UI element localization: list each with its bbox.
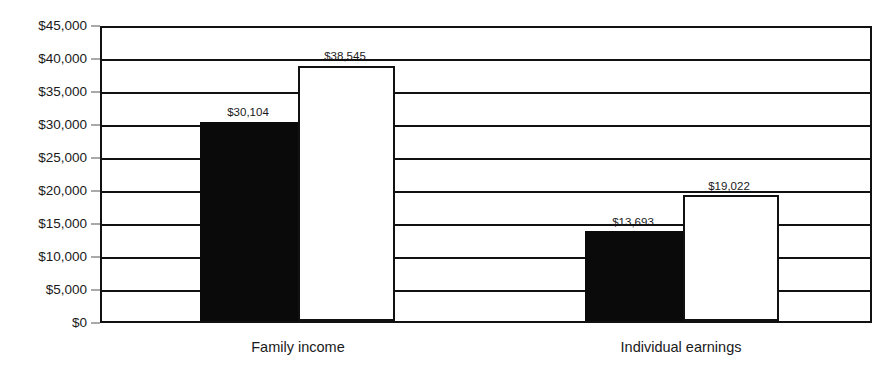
y-tick-label-40000: $40,000: [38, 52, 87, 66]
bar-value-label-individual-earnings-dark: $13,693: [612, 217, 654, 229]
chart-title: [0, 0, 885, 2]
bar-value-label-individual-earnings-light: $19,022: [708, 181, 750, 193]
y-tick-mark-15000: [91, 224, 100, 225]
bar-family-income-dark: [200, 122, 300, 321]
y-tick-mark-25000: [91, 158, 100, 159]
y-tick-label-25000: $25,000: [38, 151, 87, 165]
bar-chart: $45,000 $40,000 $35,000 $30,000 $25,000 …: [0, 0, 885, 374]
y-tick-label-20000: $20,000: [38, 184, 87, 198]
y-tick-label-0: $0: [72, 316, 87, 330]
y-tick-mark-35000: [91, 92, 100, 93]
y-tick-mark-10000: [91, 257, 100, 258]
y-tick-label-15000: $15,000: [38, 217, 87, 231]
gridline-40000: [102, 59, 870, 61]
y-tick-mark-20000: [91, 191, 100, 192]
bar-value-label-family-income-dark: $30,104: [227, 107, 269, 119]
plot-area: [100, 26, 872, 323]
y-tick-mark-45000: [91, 26, 100, 27]
y-tick-label-45000: $45,000: [38, 19, 87, 33]
y-tick-label-10000: $10,000: [38, 250, 87, 264]
y-axis: $45,000 $40,000 $35,000 $30,000 $25,000 …: [0, 0, 100, 374]
bar-family-income-light: [298, 66, 395, 321]
gridline-35000: [102, 92, 870, 94]
bar-individual-earnings-dark: [585, 231, 685, 321]
bar-value-label-family-income-light: $38,545: [324, 51, 366, 63]
y-tick-label-5000: $5,000: [46, 283, 87, 297]
bar-individual-earnings-light: [683, 195, 779, 321]
category-label-family-income: Family income: [251, 340, 344, 355]
y-tick-mark-30000: [91, 125, 100, 126]
y-tick-mark-0: [91, 323, 100, 324]
category-label-individual-earnings: Individual earnings: [621, 340, 742, 355]
y-tick-mark-5000: [91, 290, 100, 291]
y-tick-label-35000: $35,000: [38, 85, 87, 99]
y-tick-mark-40000: [91, 59, 100, 60]
y-tick-label-30000: $30,000: [38, 118, 87, 132]
